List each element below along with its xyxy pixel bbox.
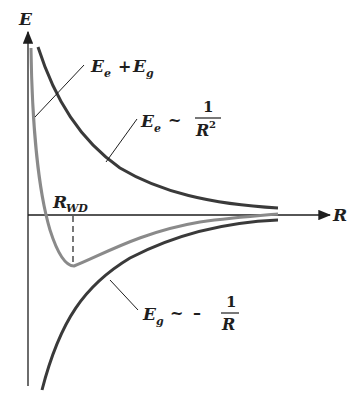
- svg-text:g: g: [156, 315, 164, 328]
- svg-text:e: e: [104, 67, 111, 80]
- total-leader-line: [35, 65, 84, 117]
- svg-text:1: 1: [226, 293, 236, 311]
- svg-text:e: e: [154, 122, 161, 135]
- svg-text:~: ~: [170, 304, 183, 323]
- svg-text:E: E: [142, 304, 157, 324]
- svg-text:E: E: [132, 56, 147, 76]
- svg-text:2: 2: [209, 119, 216, 130]
- gravity-leader-line: [110, 280, 138, 310]
- svg-text:E: E: [140, 111, 155, 131]
- x-axis-label: R: [332, 205, 347, 225]
- svg-text:1: 1: [203, 98, 213, 116]
- gravitational-energy-curve: [42, 220, 278, 390]
- svg-text:+: +: [118, 57, 131, 76]
- svg-text:g: g: [146, 67, 154, 80]
- svg-text:R: R: [221, 315, 235, 334]
- rwd-label: R WD: [52, 192, 88, 215]
- gravitational-energy-label: E g ~ – 1 R: [142, 293, 239, 334]
- svg-text:E: E: [90, 56, 105, 76]
- energy-diagram: E R E e + E g E e ~ 1 R 2 E g ~ – 1 R R …: [0, 0, 354, 408]
- electron-energy-label: E e ~ 1 R 2: [140, 98, 221, 140]
- svg-text:–: –: [193, 304, 201, 323]
- electron-leader-line: [106, 119, 137, 162]
- svg-text:R: R: [195, 121, 209, 140]
- svg-text:~: ~: [168, 111, 181, 130]
- svg-text:R: R: [52, 192, 67, 212]
- y-axis-label: E: [18, 9, 33, 29]
- total-energy-label: E e + E g: [90, 56, 154, 80]
- total-energy-curve: [31, 48, 278, 266]
- svg-text:WD: WD: [66, 202, 88, 215]
